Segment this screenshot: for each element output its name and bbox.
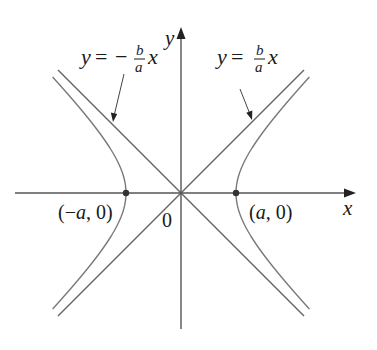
- hyperbola-svg: y x 0 (−a, 0) (a, 0) y = − b a x y = b a…: [0, 0, 377, 350]
- neg-label-den: a: [135, 59, 143, 75]
- positive-asymptote-label: y = b a x: [215, 42, 278, 75]
- y-axis-arrowhead-icon: [177, 27, 186, 39]
- right-vertex-var: a: [256, 201, 266, 223]
- right-vertex-dot: [233, 190, 239, 196]
- left-vertex-label: (−a, 0): [58, 201, 113, 224]
- pos-label-den: a: [255, 59, 263, 75]
- positive-asymptote-pointer: [240, 89, 250, 113]
- y-axis-label: y: [163, 26, 175, 50]
- left-vertex-paren-open: (−: [58, 201, 76, 224]
- positive-asymptote-pointer-arrowhead-icon: [246, 111, 252, 120]
- left-vertex-paren-close: , 0): [86, 201, 113, 224]
- pos-label-y: y: [215, 44, 227, 69]
- right-vertex-paren-close: , 0): [266, 201, 293, 224]
- pos-label-x: x: [267, 44, 278, 69]
- neg-label-x: x: [147, 44, 158, 69]
- neg-label-sign: −: [115, 44, 127, 69]
- negative-asymptote-pointer-arrowhead-icon: [111, 113, 117, 122]
- pos-label-num: b: [256, 42, 264, 58]
- origin-label: 0: [162, 209, 172, 231]
- left-vertex-dot: [123, 190, 129, 196]
- neg-label-num: b: [136, 42, 144, 58]
- pos-label-eq: =: [231, 44, 243, 69]
- hyperbola-figure: y x 0 (−a, 0) (a, 0) y = − b a x y = b a…: [0, 0, 377, 350]
- neg-label-y: y: [79, 44, 91, 69]
- x-axis-label: x: [342, 196, 353, 220]
- neg-label-eq: =: [95, 44, 107, 69]
- negative-asymptote-label: y = − b a x: [79, 42, 158, 75]
- right-vertex-label: (a, 0): [249, 201, 292, 224]
- left-vertex-var: a: [76, 201, 86, 223]
- negative-asymptote-pointer: [115, 74, 125, 114]
